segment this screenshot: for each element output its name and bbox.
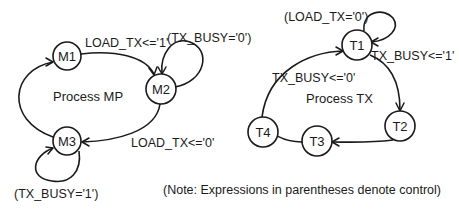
state-t2: T2 — [385, 111, 415, 141]
edge-label-m3-self: (TX_BUSY='1') — [14, 187, 98, 201]
state-label-t2: T2 — [392, 119, 407, 134]
edge-m3-m1 — [19, 62, 53, 137]
state-t1: T1 — [342, 30, 372, 60]
footnote: (Note: Expressions in parentheses denote… — [163, 183, 441, 197]
state-diagram: M1 M2 M3 T1 T2 T3 T4 Process MP Process … — [0, 0, 459, 214]
edge-t1-t2 — [370, 55, 400, 110]
state-t3: T3 — [302, 126, 332, 156]
state-m3: M3 — [53, 127, 81, 155]
edge-label-t1-t2: TX_BUSY<='1' — [371, 49, 454, 63]
process-label-tx: Process TX — [306, 91, 373, 106]
state-m1: M1 — [53, 42, 81, 70]
state-label-t4: T4 — [255, 125, 270, 140]
edge-t2-t3 — [332, 140, 393, 142]
state-label-m1: M1 — [58, 49, 76, 64]
state-label-m2: M2 — [152, 82, 170, 97]
process-label-mp: Process MP — [53, 89, 123, 104]
state-label-m3: M3 — [58, 134, 76, 149]
edge-label-t1-self: (LOAD_TX='0') — [284, 10, 368, 24]
state-m2: M2 — [146, 74, 176, 104]
state-t4: T4 — [248, 117, 278, 147]
edge-label-m2-m3: LOAD_TX<='0' — [131, 136, 214, 150]
edge-label-m2-self: (TX_BUSY='0') — [167, 31, 251, 45]
edge-label-m1-m2: LOAD_TX<='1' — [85, 36, 168, 50]
state-label-t1: T1 — [349, 38, 364, 53]
edge-label-t4-t1: TX_BUSY<='0' — [272, 71, 355, 85]
edge-m1-m2 — [81, 53, 154, 74]
state-label-t3: T3 — [309, 134, 324, 149]
